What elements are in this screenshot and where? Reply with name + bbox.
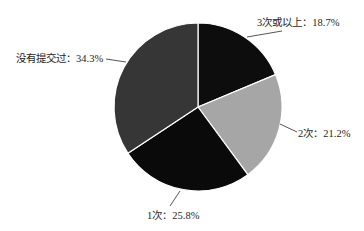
leader-line-1-time — [170, 191, 180, 206]
label-2-times: 2次：21.2% — [298, 127, 351, 139]
leader-line-3-or-more — [247, 31, 282, 37]
pie-chart: 3次或以上：18.7% 2次：21.2% 1次：25.8% 没有提交过：34.3… — [0, 0, 364, 231]
label-1-time: 1次：25.8% — [147, 209, 200, 221]
label-3-or-more: 3次或以上：18.7% — [257, 16, 340, 28]
label-never-submitted: 没有提交过：34.3% — [16, 52, 103, 64]
leader-line-2-times — [280, 124, 297, 132]
pie — [114, 23, 282, 191]
leader-line-never-submitted — [106, 59, 126, 62]
